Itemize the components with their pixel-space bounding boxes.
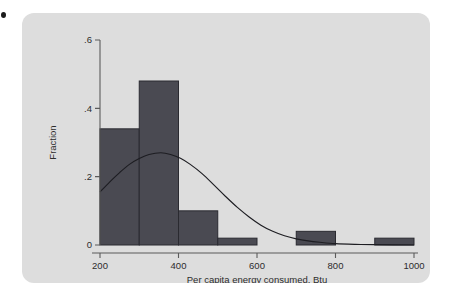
x-tick-label: 200 [92,260,108,271]
x-tick-label: 600 [249,260,265,271]
x-axis-title: Per capita energy consumed, Btu [187,274,327,283]
figure-root: 0.2.4.6 2004006008001000 Per capita ener… [0,0,449,299]
y-tick-label: .6 [84,34,92,45]
y-tick-label: .4 [84,103,92,114]
histogram-bar [179,211,218,245]
histogram-chart-card: 0.2.4.6 2004006008001000 Per capita ener… [22,13,430,283]
histogram-plot: 0.2.4.6 2004006008001000 Per capita ener… [22,13,430,283]
histogram-bar [139,81,178,245]
x-tick-label: 1000 [403,260,424,271]
histogram-bar [375,238,414,245]
histogram-bars [100,81,414,245]
y-tick-label: .2 [84,171,92,182]
x-tick-label: 800 [328,260,344,271]
y-axis-title: Fraction [47,125,58,159]
histogram-bar [218,238,257,245]
bullet-marker-icon [1,12,6,18]
x-tick-label: 400 [171,260,187,271]
histogram-bar [100,129,139,245]
y-axis: 0.2.4.6 [84,34,100,250]
x-axis: 2004006008001000 [92,253,425,271]
y-tick-label: 0 [87,239,92,250]
